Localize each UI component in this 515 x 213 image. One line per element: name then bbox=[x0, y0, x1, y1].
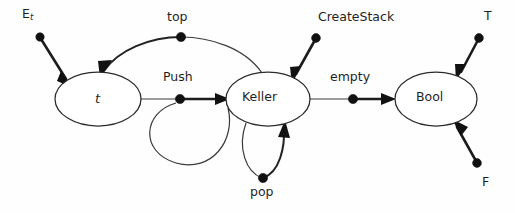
port-dot-T[interactable] bbox=[475, 34, 484, 43]
edge-top-right-arc bbox=[181, 37, 262, 73]
edge-Push-keller-loop bbox=[150, 103, 230, 165]
op-label-T: T bbox=[484, 10, 492, 23]
edge-F-to-bool bbox=[452, 119, 481, 167]
port-dot-F[interactable] bbox=[473, 159, 482, 168]
node-label-keller: Keller bbox=[242, 91, 277, 104]
op-label-Push: Push bbox=[163, 71, 193, 84]
op-label-pop: pop bbox=[250, 186, 274, 199]
op-label-F: F bbox=[482, 176, 489, 189]
arrowhead-empty bbox=[381, 93, 396, 105]
edge-empty-to-bool bbox=[310, 93, 396, 105]
edge-pop-keller-loop bbox=[242, 120, 290, 183]
edge-top-left-arc bbox=[104, 37, 181, 71]
diagram-svg bbox=[0, 0, 515, 213]
op-label-empty: empty bbox=[330, 71, 370, 84]
edge-T-to-bool bbox=[455, 34, 483, 81]
node-label-bool: Bool bbox=[416, 91, 443, 104]
port-dot-pop[interactable] bbox=[258, 173, 267, 182]
edge-CreateStack-to-keller bbox=[290, 34, 320, 84]
diagram-canvas: t Keller Bool Et top Push CreateStack po… bbox=[0, 0, 515, 213]
op-label-Et-subscript: t bbox=[30, 12, 33, 22]
port-dot-CreateStack[interactable] bbox=[312, 34, 321, 43]
node-label-t: t bbox=[95, 92, 100, 105]
op-label-CreateStack: CreateStack bbox=[318, 11, 394, 24]
port-dot-empty[interactable] bbox=[348, 94, 357, 103]
op-label-Et-base: E bbox=[22, 6, 30, 21]
port-dot-Push[interactable] bbox=[175, 94, 184, 103]
port-dot-top[interactable] bbox=[176, 32, 185, 41]
edge-pop-down bbox=[242, 123, 262, 178]
op-label-Et: Et bbox=[22, 8, 33, 22]
edge-Push-to-keller bbox=[141, 93, 230, 165]
op-label-top: top bbox=[167, 11, 187, 24]
port-dot-Et[interactable] bbox=[36, 33, 44, 41]
